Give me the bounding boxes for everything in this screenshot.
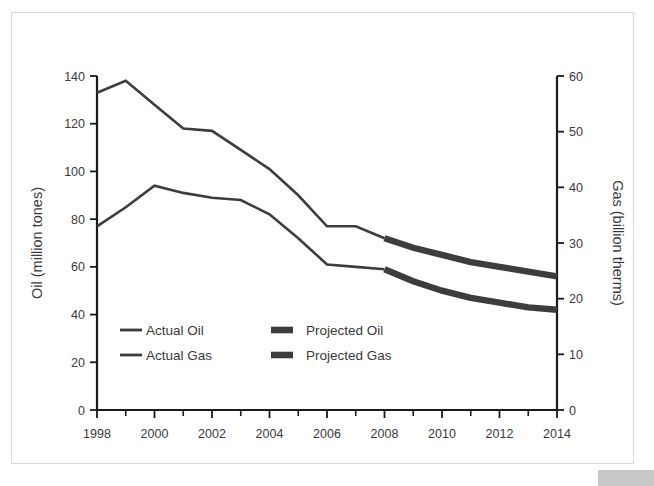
right-tick-label: 60 [569,70,583,84]
legend-label-projected-oil: Projected Oil [306,323,383,338]
right-tick-label: 20 [569,292,583,306]
x-tick-label: 2004 [256,427,284,441]
left-axis-title: Oil (million tones) [29,187,45,299]
right-axis-tick-labels: 0102030405060 [569,70,583,418]
x-axis-tick-labels: 199820002002200420062008201020122014 [83,427,571,441]
left-tick-label: 20 [71,356,85,370]
x-tick-label: 2012 [486,427,514,441]
line-chart: 020406080100120140 Oil (million tones) 0… [0,0,654,486]
corner-gray-block [598,470,654,486]
left-axis-tick-labels: 020406080100120140 [64,70,85,418]
right-y-axis: 0102030405060 Gas (billion therms) [557,70,626,418]
series-line-actual-oil [97,81,385,238]
left-tick-label: 40 [71,308,85,322]
x-axis-ticks [97,410,557,418]
x-tick-label: 2010 [428,427,456,441]
right-axis-title: Gas (billion therms) [610,180,626,306]
x-tick-label: 2000 [141,427,169,441]
x-tick-label: 2002 [198,427,226,441]
left-tick-label: 60 [71,260,85,274]
series-line-projected-oil [385,238,558,276]
right-tick-label: 40 [569,181,583,195]
x-tick-label: 2008 [371,427,399,441]
right-tick-label: 30 [569,237,583,251]
x-tick-label: 2006 [313,427,341,441]
x-tick-label: 1998 [83,427,111,441]
x-tick-label: 2014 [543,427,571,441]
right-tick-label: 0 [569,404,576,418]
right-tick-label: 10 [569,348,583,362]
left-tick-label: 0 [78,404,85,418]
legend-label-actual-gas: Actual Gas [146,348,212,363]
chart-legend: Actual OilProjected OilActual GasProject… [120,323,392,363]
data-series-group [97,81,557,310]
left-tick-label: 120 [64,117,85,131]
x-axis: 199820002002200420062008201020122014 [83,410,571,441]
right-tick-label: 50 [569,125,583,139]
left-tick-label: 140 [64,70,85,84]
legend-label-projected-gas: Projected Gas [306,348,392,363]
left-y-axis: 020406080100120140 Oil (million tones) [29,70,97,418]
left-tick-label: 100 [64,165,85,179]
left-tick-label: 80 [71,213,85,227]
legend-label-actual-oil: Actual Oil [146,323,204,338]
